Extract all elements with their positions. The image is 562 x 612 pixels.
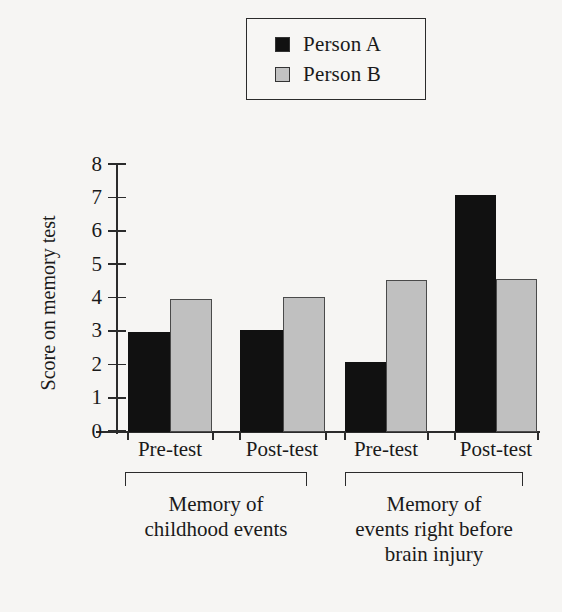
y-tick-label-1: 1 — [76, 387, 102, 408]
y-axis-title: Score on memory test — [38, 193, 58, 413]
bar-chart-figure: Person A Person B Score on memory test 0… — [0, 0, 562, 612]
y-tick-0 — [108, 430, 126, 432]
bar-person-b-g2-post-test — [496, 279, 537, 433]
y-tick-1 — [108, 397, 126, 399]
bar-person-b-g2-pre-test — [386, 280, 427, 432]
bar-person-a-g1-pre-test — [128, 332, 170, 432]
y-tick-6 — [108, 230, 126, 232]
y-tick-label-4: 4 — [76, 287, 102, 308]
group-caption-brain-injury: Memory of events right before brain inju… — [334, 492, 534, 567]
y-tick-label-5: 5 — [76, 254, 102, 275]
group-caption-brain-injury-line-1: Memory of — [334, 492, 534, 517]
y-tick-4 — [108, 297, 126, 299]
group-bracket-brain-injury — [345, 472, 523, 486]
y-tick-7 — [108, 197, 126, 199]
bar-person-a-g2-pre-test — [345, 362, 386, 432]
y-tick-label-7: 7 — [76, 187, 102, 208]
y-tick-label-8: 8 — [76, 154, 102, 175]
group-caption-childhood: Memory of childhood events — [116, 492, 316, 542]
x-label-g2-post-test: Post-test — [431, 438, 561, 460]
y-tick-2 — [108, 364, 126, 366]
bar-person-a-g2-post-test — [455, 195, 496, 432]
y-axis-line — [116, 164, 118, 434]
y-tick-label-3: 3 — [76, 320, 102, 341]
group-caption-brain-injury-line-3: brain injury — [334, 542, 534, 567]
y-tick-3 — [108, 330, 126, 332]
bar-person-b-g1-pre-test — [170, 299, 212, 433]
x-label-g1-pre-test: Pre-test — [105, 438, 235, 460]
group-caption-childhood-line-1: Memory of — [116, 492, 316, 517]
group-caption-brain-injury-line-2: events right before — [334, 517, 534, 542]
y-tick-label-0: 0 — [76, 421, 102, 442]
group-caption-childhood-line-2: childhood events — [116, 517, 316, 542]
group-bracket-childhood — [125, 472, 307, 486]
bar-person-a-g1-post-test — [240, 330, 283, 432]
bar-person-b-g1-post-test — [283, 297, 325, 432]
y-tick-8 — [108, 163, 126, 165]
plot-area: Score on memory test 0 1 2 3 4 5 6 7 8 — [0, 0, 562, 612]
y-tick-5 — [108, 263, 126, 265]
y-tick-label-2: 2 — [76, 354, 102, 375]
y-tick-label-6: 6 — [76, 220, 102, 241]
